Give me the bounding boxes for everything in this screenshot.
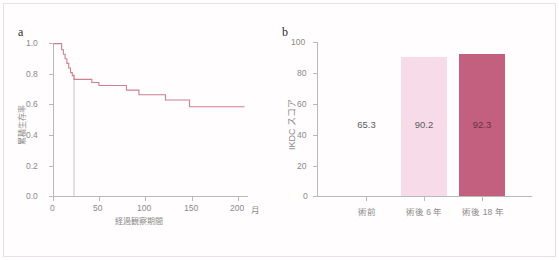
panel-b-y-axis [317,42,318,197]
bar-value-preop: 65.3 [344,119,389,130]
panel-b-y-tick [313,104,317,105]
figure-container: a 1.0 0.8 0.6 0.4 0.2 0.0 0 50 100 150 2… [0,0,559,260]
panel-a-plot-area [0,0,280,260]
category-label-preop: 術前 [341,205,393,217]
panel-b-label: b [282,25,288,40]
panel-a-survival-curve [54,44,245,107]
category-label-postop-6y: 術後 6 年 [396,205,452,217]
panel-b-y-tick-label: 60 [297,99,306,109]
panel-b-x-tick [424,197,425,201]
panel-a-survival-chart: a 1.0 0.8 0.6 0.4 0.2 0.0 0 50 100 150 2… [0,0,280,260]
panel-b-y-tick-label: 40 [297,130,306,140]
panel-b-y-axis-title: IKDC スコア [285,99,298,150]
panel-b-y-tick-label: 100 [291,37,305,47]
category-label-postop-18y: 術後 18 年 [453,205,513,217]
panel-b-y-tick-label: 0 [303,191,308,201]
bar-value-postop-6y: 90.2 [401,119,447,130]
panel-b-y-tick [313,135,317,136]
panel-b-y-tick-label: 80 [297,68,306,78]
panel-b-y-tick [313,196,317,197]
panel-b-y-tick-label: 20 [297,161,306,171]
panel-b-y-tick [313,166,317,167]
panel-b-y-tick [313,42,317,43]
panel-b-ikdc-chart: b 100 80 60 40 20 0 IKDC スコア 65.3 90.2 [270,0,559,260]
bar-value-postop-18y: 92.3 [459,119,505,130]
panel-b-x-tick [482,197,483,201]
panel-b-y-tick [313,73,317,74]
panel-b-x-tick [366,197,367,201]
